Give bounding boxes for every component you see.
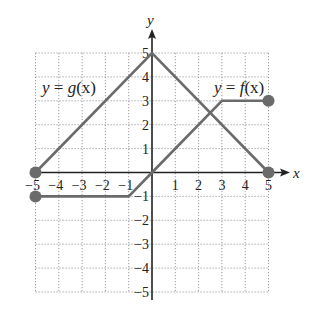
x-tick-label: −5	[25, 178, 40, 193]
y-tick-label: −4	[134, 261, 149, 276]
y-tick-label: −2	[134, 213, 149, 228]
x-tick-label: −3	[72, 178, 87, 193]
axes: x y	[30, 12, 300, 300]
endpoint-dot	[263, 95, 275, 107]
x-tick-label: 4	[242, 178, 249, 193]
y-tick-label: −1	[134, 189, 149, 204]
y-tick-label: 3	[142, 94, 149, 109]
x-tick-label: 1	[172, 178, 179, 193]
x-tick-label: −1	[118, 178, 133, 193]
g-curve-label: y = g(x)	[40, 78, 96, 97]
y-tick-label: 2	[142, 118, 149, 133]
y-tick-label: 1	[142, 142, 149, 157]
y-tick-label: −5	[134, 285, 149, 300]
endpoint-dot	[30, 190, 42, 202]
y-tick-label: 4	[142, 70, 149, 85]
x-tick-label: 3	[218, 178, 225, 193]
x-axis-label: x	[292, 165, 300, 181]
x-tick-label: −2	[95, 178, 110, 193]
f-curve-label: y = f(x)	[212, 78, 264, 97]
endpoint-dot	[30, 167, 42, 179]
endpoint-dot	[263, 167, 275, 179]
y-axis-label: y	[145, 12, 154, 28]
x-tick-label: 5	[265, 178, 272, 193]
function-graph: x y −5−4−3−2−11234554321−1−2−3−4−5 y = g…	[0, 0, 314, 311]
y-tick-label: −3	[134, 237, 149, 252]
x-tick-label: −4	[48, 178, 63, 193]
x-tick-label: 2	[195, 178, 202, 193]
